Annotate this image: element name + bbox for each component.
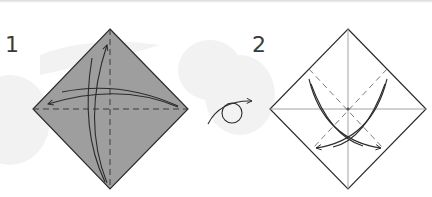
- origami-diagram: 1 2: [0, 0, 432, 197]
- step-number-2: 2: [252, 32, 266, 57]
- step-number-1: 1: [5, 32, 19, 57]
- step-2-diagram: [270, 29, 426, 189]
